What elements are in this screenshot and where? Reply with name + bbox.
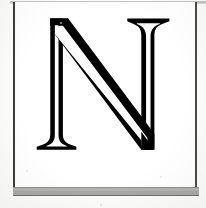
scan-speck <box>160 176 162 178</box>
letter-field <box>15 2 195 192</box>
screenshot-canvas: Large decorative inline capital letter N <box>0 0 206 208</box>
scan-speck <box>100 204 102 206</box>
scan-speck <box>143 24 145 26</box>
page-bottom-margin <box>0 197 206 208</box>
inline-capital-n-glyph <box>15 2 195 186</box>
ink-border-frame <box>13 2 197 196</box>
page-edge-band-highlight <box>13 188 199 191</box>
scan-speck <box>26 170 28 172</box>
scan-speck <box>60 22 62 24</box>
